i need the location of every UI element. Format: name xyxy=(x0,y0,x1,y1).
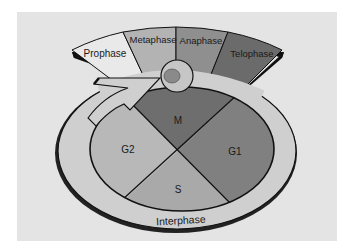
nucleus-icon xyxy=(164,69,180,83)
metaphase-label: Metaphase xyxy=(129,34,176,45)
s-label: S xyxy=(175,184,182,195)
g2-label: G2 xyxy=(121,144,135,155)
m-label: M xyxy=(174,115,182,126)
anaphase-label: Anaphase xyxy=(180,35,223,46)
cell-cycle-diagram: Prophase Metaphase Anaphase Telophase M … xyxy=(0,0,352,251)
telophase-label: Telophase xyxy=(230,48,273,59)
prophase-label: Prophase xyxy=(84,48,127,59)
g1-label: G1 xyxy=(228,146,242,157)
